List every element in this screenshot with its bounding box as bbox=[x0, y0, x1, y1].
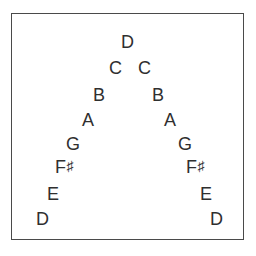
note-letter-glyph: G bbox=[66, 134, 80, 154]
note-letter-desc-g: G bbox=[178, 135, 192, 153]
note-letter-desc-e: E bbox=[200, 185, 212, 203]
note-letter-glyph: A bbox=[82, 110, 94, 130]
note-letter-desc-c: C bbox=[138, 59, 151, 77]
note-letter-desc-fs: F♯ bbox=[186, 158, 204, 176]
note-letter-glyph: G bbox=[178, 134, 192, 154]
note-letter-desc-a: A bbox=[164, 111, 176, 129]
note-letter-asc-g: G bbox=[66, 135, 80, 153]
note-letter-glyph: F bbox=[55, 157, 66, 177]
note-letter-glyph: D bbox=[121, 32, 134, 52]
note-letter-asc-d-low: D bbox=[36, 210, 49, 228]
note-letter-glyph: E bbox=[47, 184, 59, 204]
note-letter-asc-fs: F♯ bbox=[55, 158, 73, 176]
note-letter-desc-d-low: D bbox=[210, 210, 223, 228]
scale-arch-diagram: DEF♯GABCDCBAGF♯ED bbox=[0, 0, 256, 256]
note-letter-asc-e: E bbox=[47, 185, 59, 203]
note-letter-glyph: C bbox=[109, 58, 122, 78]
note-letter-glyph: F bbox=[186, 157, 197, 177]
note-letter-desc-b: B bbox=[152, 86, 164, 104]
sharp-accidental-icon: ♯ bbox=[197, 158, 204, 174]
note-letter-glyph: E bbox=[200, 184, 212, 204]
note-letter-glyph: C bbox=[138, 58, 151, 78]
note-letter-glyph: B bbox=[93, 85, 105, 105]
note-letter-peak-d: D bbox=[121, 33, 134, 51]
note-letter-glyph: A bbox=[164, 110, 176, 130]
note-letter-asc-a: A bbox=[82, 111, 94, 129]
sharp-accidental-icon: ♯ bbox=[66, 158, 73, 174]
note-letter-asc-b: B bbox=[93, 86, 105, 104]
note-letter-glyph: B bbox=[152, 85, 164, 105]
note-letter-glyph: D bbox=[210, 209, 223, 229]
note-letter-glyph: D bbox=[36, 209, 49, 229]
note-letter-asc-c: C bbox=[109, 59, 122, 77]
